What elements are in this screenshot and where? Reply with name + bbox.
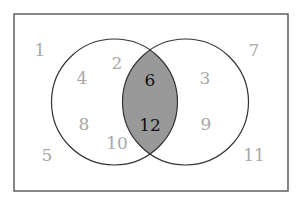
left-set-number: 8 — [79, 114, 90, 134]
venn-diagram: 1 5 7 11 2 4 8 10 6 12 3 9 — [0, 0, 302, 206]
universe-number: 11 — [243, 145, 265, 165]
universe-number: 7 — [249, 40, 260, 60]
right-set-number: 9 — [201, 114, 212, 134]
universe-number: 1 — [35, 40, 46, 60]
left-set-number: 4 — [77, 68, 88, 88]
left-set-number: 10 — [106, 133, 128, 153]
universe-number: 5 — [42, 145, 53, 165]
left-set-number: 2 — [112, 53, 123, 73]
right-set-number: 3 — [200, 68, 211, 88]
intersection-number: 12 — [139, 115, 161, 135]
intersection-number: 6 — [145, 70, 156, 90]
